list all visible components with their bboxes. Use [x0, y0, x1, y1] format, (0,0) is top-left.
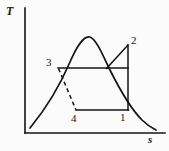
process-line-3-to-4-dashed: [59, 69, 77, 111]
point-label-3: 3: [46, 57, 52, 68]
y-axis-label: T: [6, 5, 13, 17]
diagram-canvas: [0, 0, 169, 151]
saturation-dome-curve: [30, 37, 156, 130]
process-line-2-diagonal: [107, 45, 129, 69]
point-label-2: 2: [131, 35, 137, 46]
x-axis-label: s: [148, 134, 152, 145]
point-label-1: 1: [120, 112, 126, 123]
ts-diagram-figure: T s 1 2 3 4: [0, 0, 169, 151]
point-label-4: 4: [71, 113, 77, 124]
